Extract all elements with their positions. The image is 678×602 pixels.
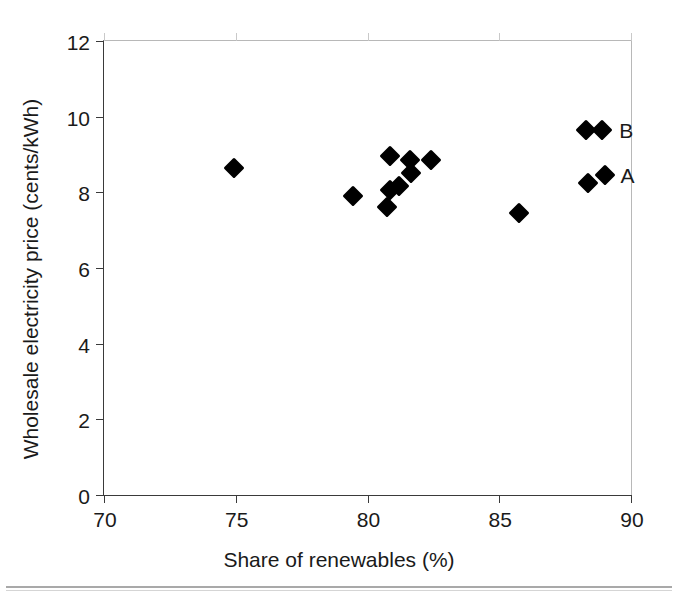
figure-page: 0246810127075808590BA Share of renewable… [0, 0, 678, 602]
scatter-chart: 0246810127075808590BA Share of renewable… [0, 0, 678, 602]
y-axis-tick: 6 [96, 268, 104, 269]
x-axis-tick-label: 85 [489, 509, 512, 530]
scan-artifact-rule [6, 586, 672, 588]
data-point-marker [420, 150, 441, 171]
x-axis-tick: 90 [631, 495, 632, 503]
x-axis-tick: 70 [104, 495, 105, 503]
data-point-annotation-b: B [619, 119, 633, 140]
data-point-marker [377, 196, 398, 217]
data-point-marker [342, 186, 363, 207]
y-axis-tick: 12 [96, 41, 104, 42]
scan-artifact-rule-faint [6, 590, 672, 591]
plot-area: 0246810127075808590BA [103, 40, 632, 496]
x-axis-tick-label: 70 [93, 509, 116, 530]
data-point-marker [224, 157, 245, 178]
x-axis-tick-top [499, 33, 500, 41]
x-axis-tick-label: 75 [225, 509, 248, 530]
x-axis-tick: 85 [499, 495, 500, 503]
x-axis-tick-top [631, 33, 632, 41]
x-axis-tick-top [104, 33, 105, 41]
x-axis-title: Share of renewables (%) [0, 548, 678, 572]
x-axis-tick-top [368, 33, 369, 41]
y-axis-tick-label: 6 [78, 259, 90, 280]
y-axis-tick-label: 10 [67, 107, 90, 128]
y-axis-title: Wholesale electricity price (cents/kWh) [19, 52, 43, 506]
data-point-marker [508, 203, 529, 224]
x-axis-tick-label: 90 [620, 509, 643, 530]
y-axis-tick: 4 [96, 344, 104, 345]
x-axis-tick: 75 [236, 495, 237, 503]
y-axis-tick: 2 [96, 419, 104, 420]
y-axis-tick: 0 [96, 495, 104, 496]
data-point-marker [379, 146, 400, 167]
y-axis-tick: 8 [96, 192, 104, 193]
y-axis-tick: 10 [96, 117, 104, 118]
y-axis-tick-label: 8 [78, 183, 90, 204]
data-point-annotation-a: A [620, 165, 634, 186]
y-axis-tick-label: 4 [78, 334, 90, 355]
data-point-marker [591, 119, 612, 140]
x-axis-tick-label: 80 [357, 509, 380, 530]
y-axis-tick-label: 12 [67, 32, 90, 53]
y-axis-tick-label: 2 [78, 410, 90, 431]
x-axis-tick: 80 [368, 495, 369, 503]
x-axis-tick-top [236, 33, 237, 41]
y-axis-tick-label: 0 [78, 486, 90, 507]
